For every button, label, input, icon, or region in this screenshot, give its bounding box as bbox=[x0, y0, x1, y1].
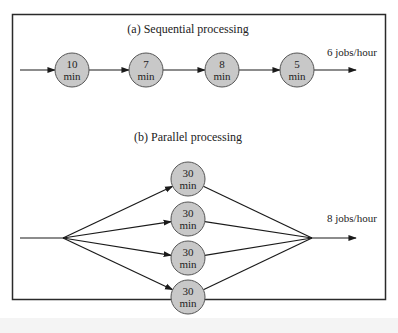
sequential-rate-label: 6 jobs/hour bbox=[327, 46, 377, 58]
parallel-fork-edge bbox=[63, 238, 171, 255]
node-duration-value: 30 bbox=[183, 246, 195, 258]
processing-diagram: (a) Sequential processing 6 jobs/hour 10… bbox=[0, 0, 398, 333]
node-duration-value: 30 bbox=[183, 207, 195, 219]
sequential-node: 5min bbox=[280, 53, 314, 87]
parallel-node: 30min bbox=[171, 241, 205, 275]
parallel-node: 30min bbox=[171, 202, 205, 236]
node-duration-unit: min bbox=[288, 70, 306, 82]
node-duration-value: 8 bbox=[219, 58, 225, 70]
sequential-title: (a) Sequential processing bbox=[127, 22, 248, 36]
node-duration-unit: min bbox=[137, 70, 155, 82]
node-duration-unit: min bbox=[179, 179, 197, 191]
node-duration-unit: min bbox=[179, 258, 197, 270]
parallel-join-edge bbox=[203, 238, 312, 290]
parallel-fork-edge bbox=[63, 238, 173, 290]
node-duration-value: 30 bbox=[183, 167, 195, 179]
node-duration-unit: min bbox=[63, 70, 81, 82]
parallel-join-edge bbox=[205, 238, 312, 255]
sequential-node: 7min bbox=[129, 53, 163, 87]
node-duration-value: 5 bbox=[294, 58, 300, 70]
sequential-node: 8min bbox=[205, 53, 239, 87]
node-duration-unit: min bbox=[179, 297, 197, 309]
parallel-node: 30min bbox=[171, 280, 205, 314]
parallel-title: (b) Parallel processing bbox=[134, 130, 242, 144]
node-duration-value: 7 bbox=[143, 58, 149, 70]
node-duration-unit: min bbox=[179, 219, 197, 231]
node-duration-value: 30 bbox=[183, 285, 195, 297]
parallel-nodes: 30min30min30min30min bbox=[171, 162, 205, 314]
node-duration-value: 10 bbox=[67, 58, 79, 70]
node-duration-unit: min bbox=[213, 70, 231, 82]
sequential-node: 10min bbox=[55, 53, 89, 87]
parallel-node: 30min bbox=[171, 162, 205, 196]
parallel-rate-label: 8 jobs/hour bbox=[327, 212, 377, 224]
